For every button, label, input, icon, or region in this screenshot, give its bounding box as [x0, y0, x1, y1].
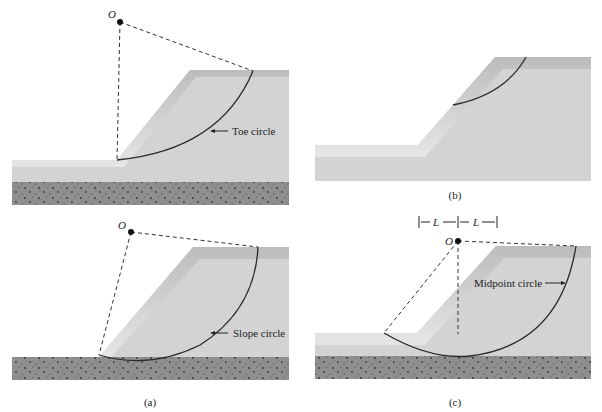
caption: (b) — [449, 189, 462, 202]
center-label: O — [445, 235, 453, 247]
circle-label: Toe circle — [232, 125, 276, 137]
slope-failure-diagram: O Toe circle (b) O Slope circle (a) — [0, 0, 602, 412]
center-label: O — [118, 219, 126, 231]
rock-layer — [12, 182, 289, 205]
center-label: O — [108, 8, 116, 20]
center-point — [455, 238, 461, 244]
panel-b: (b) — [315, 57, 591, 202]
center-point — [117, 19, 123, 25]
center-point — [128, 229, 134, 235]
rock-layer — [315, 356, 591, 379]
panel-midpoint-circle: O L L Midpoint circle (c) — [315, 216, 591, 409]
panel-slope-circle: O Slope circle (a) — [12, 219, 289, 409]
circle-label: Slope circle — [233, 327, 285, 339]
panel-toe-circle: O Toe circle — [12, 8, 289, 205]
dimension-label-left: L — [432, 216, 439, 228]
caption: (a) — [144, 396, 157, 409]
circle-label: Midpoint circle — [474, 277, 542, 289]
dimension-label-right: L — [472, 216, 479, 228]
dimension-markers — [419, 216, 497, 228]
caption: (c) — [449, 396, 462, 409]
